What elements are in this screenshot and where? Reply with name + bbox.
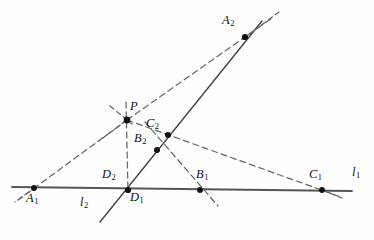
pencil-stub-left [99,120,127,141]
point-c1 [319,187,325,193]
line-l1 [12,187,352,191]
point-b2 [154,147,160,153]
point-c2 [165,132,171,138]
label-line-l1: l1 [352,166,360,180]
point-b1 [197,187,203,193]
label-b1: B1 [196,168,208,182]
pencil-line-p-c1 [127,120,338,196]
label-p: P [130,100,138,113]
label-c2: C2 [146,117,159,131]
label-b2: B2 [134,132,146,146]
chord-line-b2-b1 [145,122,218,206]
diagram-canvas: A1 A2 B1 B2 C1 C2 D1 D2 P l1 l2 [0,0,374,240]
label-a2: A2 [222,14,234,28]
geometry-svg [0,0,374,240]
dashed-lines [15,12,342,206]
pencil-line-p-d1 [126,102,128,192]
label-d2: D2 [102,168,116,182]
solid-lines [12,21,352,222]
point-markers [31,34,325,193]
label-a1: A1 [26,192,38,206]
point-p [124,117,131,124]
label-c1: C1 [309,168,322,182]
point-a2 [242,34,248,40]
label-line-l2: l2 [80,196,88,210]
label-d1: D1 [130,191,144,205]
